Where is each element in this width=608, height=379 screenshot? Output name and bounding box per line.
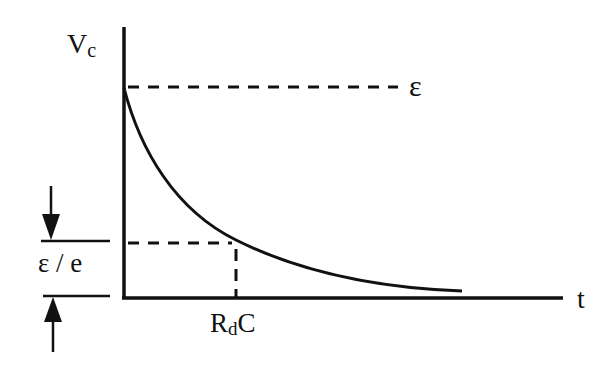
epsilon-over-e-label: ε / e [38,250,82,277]
discharge-diagram: Vc ε ε / e t RdC [0,0,608,379]
up-arrow-icon [44,297,62,352]
y-axis-label: Vc [67,30,96,60]
x-axis-label: t [577,285,585,313]
time-constant-label: RdC [210,310,256,338]
decay-curve [124,88,462,291]
epsilon-label: ε [409,71,422,101]
down-arrow-icon [42,186,60,240]
